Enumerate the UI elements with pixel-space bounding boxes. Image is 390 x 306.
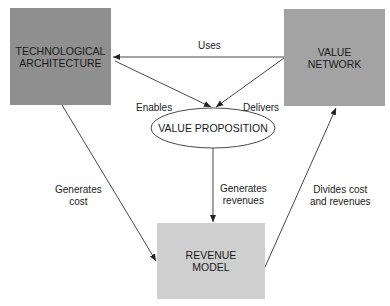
technological-architecture-node: TECHNOLOGICAL ARCHITECTURE xyxy=(10,8,111,105)
generates-cost-arrow xyxy=(62,105,156,261)
enables-label: Enables xyxy=(136,102,172,114)
generates-revenues-label: Generates revenues xyxy=(220,183,267,206)
divides-label: Divides cost and revenues xyxy=(310,184,371,207)
value-network-node: VALUE NETWORK xyxy=(284,9,385,106)
value-network-label: VALUE NETWORK xyxy=(308,46,362,70)
value-proposition-node: VALUE PROPOSITION xyxy=(151,108,275,148)
value-proposition-label: VALUE PROPOSITION xyxy=(158,122,268,134)
delivers-label: Delivers xyxy=(243,102,279,114)
enables-arrow xyxy=(115,61,211,107)
generates-cost-label: Generates cost xyxy=(55,184,102,207)
revenue-model-label: REVENUE MODEL xyxy=(186,249,237,273)
technological-architecture-label: TECHNOLOGICAL ARCHITECTURE xyxy=(16,45,106,69)
delivers-arrow xyxy=(216,58,284,107)
revenue-model-node: REVENUE MODEL xyxy=(157,223,265,299)
uses-label: Uses xyxy=(198,40,221,52)
